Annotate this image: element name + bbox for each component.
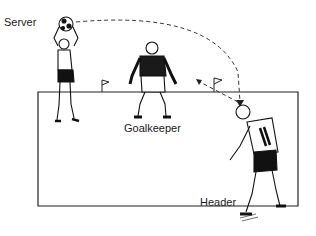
header-player — [230, 105, 286, 221]
server-player — [54, 17, 79, 121]
goalkeeper-label: Goalkeeper — [124, 122, 181, 134]
flag-icon — [214, 78, 222, 92]
header-label: Header — [200, 196, 236, 208]
drill-diagram: Server Goalkeeper Header — [0, 0, 316, 236]
server-label: Server — [4, 16, 36, 28]
goalkeeper-player — [130, 42, 176, 117]
drill-illustration — [0, 0, 316, 236]
flag-icon — [102, 80, 109, 92]
ball-icon — [59, 17, 73, 31]
arrowhead-icon — [196, 79, 202, 85]
